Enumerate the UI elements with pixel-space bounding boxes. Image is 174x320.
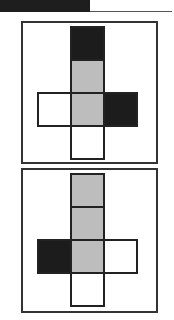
cube-net-panel-2 xyxy=(21,168,158,313)
net2-face-top xyxy=(70,173,105,208)
net1-face-top xyxy=(70,26,105,61)
net1-face-upper xyxy=(70,59,105,94)
net2-face-upper xyxy=(70,206,105,241)
net2-face-bottom xyxy=(70,272,105,307)
net2-face-center xyxy=(70,239,105,274)
net1-face-left xyxy=(37,92,72,127)
net2-face-right xyxy=(103,239,138,274)
net1-face-bottom xyxy=(70,125,105,160)
net1-face-center xyxy=(70,92,105,127)
net2-face-left xyxy=(37,239,72,274)
header-divider xyxy=(90,11,172,12)
header-bar xyxy=(0,0,90,12)
cube-net-panel-1 xyxy=(21,21,158,164)
net1-face-right xyxy=(103,92,138,127)
